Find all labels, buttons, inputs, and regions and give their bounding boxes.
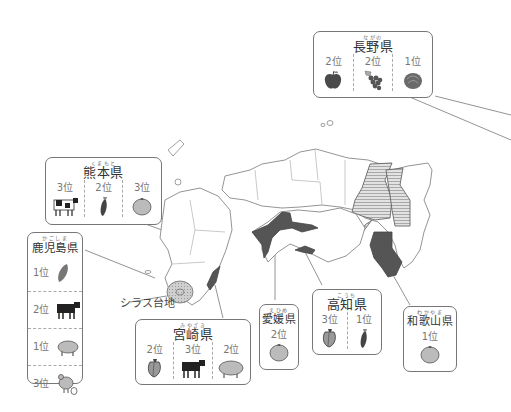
eggplant-icon: [357, 327, 371, 349]
sweet-potato-icon: [55, 262, 71, 284]
pig-icon: [55, 337, 81, 357]
wakayama-rank: 1位: [404, 330, 456, 344]
callout-kumamoto: くまもと 熊本県 3位 2位 3位: [45, 157, 162, 225]
callout-wakayama: わかやま 和歌山県 1位: [403, 306, 457, 372]
ehime-rank: 2位: [260, 328, 298, 342]
beef-cattle-icon: [55, 300, 81, 320]
mandarin-icon: [131, 195, 153, 217]
miyazaki-item-beef-cattle: 3位: [173, 342, 211, 379]
callout-nagano: ながの 長野県 2位 2位 1位: [313, 31, 433, 98]
wakayama-title: 和歌山県: [404, 315, 456, 329]
kochi-item-green-pepper: 3位: [313, 312, 347, 349]
green-pepper-icon: [319, 327, 341, 349]
callout-kochi: こうち 高知県 3位 1位: [312, 289, 382, 355]
miyazaki-item-green-pepper: 2位: [136, 342, 173, 379]
kumamoto-title: 熊本県: [46, 166, 161, 180]
mandarin-icon: [419, 344, 441, 364]
chicken-icon: [55, 372, 79, 396]
mandarin-icon: [268, 342, 290, 362]
kochi-title: 高知県: [313, 298, 381, 312]
kumamoto-item-mandarin: 3位: [122, 180, 161, 217]
kagoshima-item-sweet-potato: 1位: [28, 255, 82, 291]
eggplant-icon: [97, 195, 111, 217]
callout-ehime: えひめ 愛媛県 2位: [259, 304, 299, 370]
pig-icon: [216, 357, 246, 379]
grape-icon: [362, 69, 384, 91]
lettuce-icon: [402, 69, 424, 91]
nagano-title: 長野県: [314, 40, 432, 54]
dairy-cow-icon: [50, 195, 80, 217]
apple-icon: [322, 69, 344, 91]
miyazaki-title: 宮崎県: [136, 328, 250, 342]
callout-miyazaki: みやざき 宮崎県 2位 3位 2位: [135, 319, 251, 385]
kagoshima-item-pig: 1位: [28, 328, 82, 365]
nagano-item-lettuce: 1位: [392, 54, 432, 91]
kagoshima-item-chicken: 3位: [28, 365, 82, 402]
kumamoto-item-dairy-cow: 3位: [46, 180, 84, 217]
beef-cattle-icon: [179, 357, 207, 379]
shirasu-plateau-label: シラス台地: [120, 294, 175, 310]
kagoshima-title: 鹿児島県: [28, 241, 82, 255]
ehime-title: 愛媛県: [260, 313, 298, 327]
kumamoto-item-eggplant: 2位: [84, 180, 123, 217]
nagano-item-grape: 2位: [353, 54, 393, 91]
callout-kagoshima: かごしま 鹿児島県 1位 2位 1位 3位: [27, 232, 83, 384]
kagoshima-item-beef-cattle: 2位: [28, 291, 82, 328]
green-pepper-icon: [144, 357, 166, 379]
miyazaki-item-pig: 2位: [212, 342, 250, 379]
nagano-item-apple: 2位: [314, 54, 353, 91]
kochi-item-eggplant: 1位: [347, 312, 382, 349]
